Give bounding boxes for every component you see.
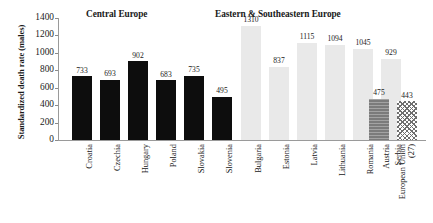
y-axis-tick-label: 0 bbox=[49, 135, 54, 144]
bar[interactable] bbox=[156, 80, 176, 140]
bar[interactable] bbox=[184, 76, 204, 140]
y-axis: 1400120010008006004002000 bbox=[22, 18, 58, 140]
bar-slot: 902 bbox=[128, 18, 148, 140]
x-axis-category-label: Hungary bbox=[142, 144, 151, 173]
bar-value-label: 837 bbox=[273, 57, 284, 65]
bar[interactable] bbox=[72, 76, 92, 140]
x-axis-category-label: Estonia bbox=[283, 144, 292, 169]
y-axis-tick-label: 200 bbox=[40, 118, 54, 127]
x-axis-category-label: European Union (27) bbox=[399, 144, 416, 206]
x-axis-category-label: Poland bbox=[170, 144, 179, 167]
x-axis-category-label: Lithuania bbox=[339, 144, 348, 176]
y-axis-tick-label: 400 bbox=[40, 100, 54, 109]
bar[interactable] bbox=[100, 80, 120, 140]
x-axis-category-label: Bulgaria bbox=[255, 144, 264, 173]
bar-value-label: 1310 bbox=[243, 16, 258, 24]
bar-value-label: 683 bbox=[160, 71, 171, 79]
x-axis-category-label: Latvia bbox=[311, 144, 320, 165]
x-axis-line bbox=[58, 140, 426, 141]
bar-value-label: 735 bbox=[188, 66, 199, 74]
bar-value-label: 1115 bbox=[300, 33, 315, 41]
y-axis-tick-label: 800 bbox=[40, 66, 54, 75]
bar-value-label: 733 bbox=[76, 67, 87, 75]
bar-value-label: 475 bbox=[373, 89, 384, 97]
y-axis-tick-label: 600 bbox=[40, 83, 54, 92]
bar[interactable] bbox=[269, 67, 289, 140]
bar-slot: 1115 bbox=[297, 18, 317, 140]
bar-value-label: 443 bbox=[401, 92, 412, 100]
x-axis-category-label: Slovakia bbox=[198, 144, 207, 173]
bar-slot: 475 bbox=[369, 18, 389, 140]
bar-slot: 837 bbox=[269, 18, 289, 140]
bar-slot: 1310 bbox=[241, 18, 261, 140]
bar-slot: 443 bbox=[397, 18, 417, 140]
bar-slot: 693 bbox=[100, 18, 120, 140]
y-axis-tick-label: 1200 bbox=[35, 31, 54, 40]
y-axis-tick-label: 1400 bbox=[35, 13, 54, 22]
bar-value-label: 495 bbox=[216, 87, 227, 95]
x-axis-category-label: Romania bbox=[367, 144, 376, 174]
x-axis-category-label: Croatia bbox=[86, 144, 95, 169]
bar-slot: 683 bbox=[156, 18, 176, 140]
bar-value-label: 902 bbox=[132, 52, 143, 60]
bar-slot: 733 bbox=[72, 18, 92, 140]
x-axis-category-label: Austria bbox=[383, 144, 392, 169]
x-axis-category-label: Czechia bbox=[114, 144, 123, 171]
bar[interactable] bbox=[325, 45, 345, 140]
bar-chart: Standardized death rate (males) 14001200… bbox=[0, 0, 433, 223]
bar[interactable] bbox=[369, 99, 389, 140]
bar-value-label: 1094 bbox=[327, 35, 342, 43]
bar-slot: 735 bbox=[184, 18, 204, 140]
bar[interactable] bbox=[128, 61, 148, 140]
plot-area: 7336939026837354951310837111510941045929… bbox=[58, 18, 426, 140]
x-axis-category-label: Slovenia bbox=[226, 144, 235, 173]
bar[interactable] bbox=[212, 97, 232, 140]
bar[interactable] bbox=[297, 43, 317, 140]
y-axis-tick-label: 1000 bbox=[35, 48, 54, 57]
bar[interactable] bbox=[241, 26, 261, 140]
bar-slot: 495 bbox=[212, 18, 232, 140]
bar[interactable] bbox=[397, 101, 417, 140]
bar-slot: 1094 bbox=[325, 18, 345, 140]
bar-value-label: 693 bbox=[104, 70, 115, 78]
